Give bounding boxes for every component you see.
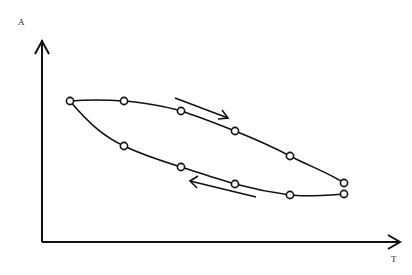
- data-point-marker: [66, 97, 73, 104]
- x-axis-label: T: [391, 254, 397, 264]
- data-point-marker: [340, 190, 347, 197]
- data-point-marker: [231, 180, 238, 187]
- data-point-marker: [286, 191, 293, 198]
- hysteresis-diagram: A T: [0, 0, 412, 275]
- data-points: [66, 97, 347, 198]
- data-point-marker: [340, 179, 347, 186]
- data-point-marker: [177, 163, 184, 170]
- upper-branch-curve: [70, 100, 344, 183]
- backward-arrow-icon: [190, 181, 256, 197]
- data-point-marker: [120, 97, 127, 104]
- data-point-marker: [120, 142, 127, 149]
- axes: A T: [18, 17, 400, 264]
- lower-branch-curve: [70, 101, 344, 196]
- y-axis-label: A: [18, 17, 25, 27]
- data-point-marker: [177, 107, 184, 114]
- data-point-marker: [231, 127, 238, 134]
- data-point-marker: [286, 152, 293, 159]
